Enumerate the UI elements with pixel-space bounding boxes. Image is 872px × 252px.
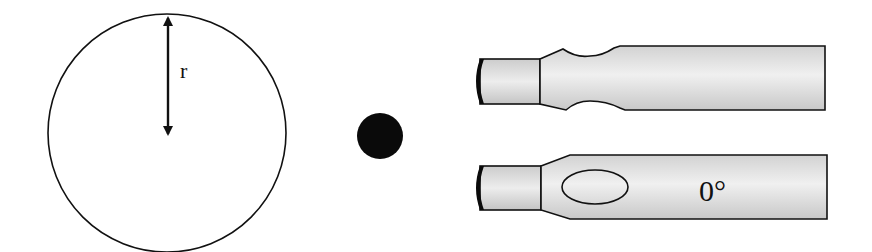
tool-body xyxy=(540,46,825,110)
tool-cap xyxy=(480,166,541,210)
diagram-canvas: r 0° xyxy=(0,0,872,252)
tool-body xyxy=(541,155,827,219)
tool-notched-tip xyxy=(476,46,825,110)
tool-cap xyxy=(480,59,540,104)
radius-label: r xyxy=(180,58,188,83)
diagram-svg: r 0° xyxy=(0,0,872,252)
circle-figure: r xyxy=(48,14,286,252)
black-dot xyxy=(357,113,403,159)
tool-oval-window-tip: 0° xyxy=(476,155,827,219)
angle-label: 0° xyxy=(699,174,726,207)
